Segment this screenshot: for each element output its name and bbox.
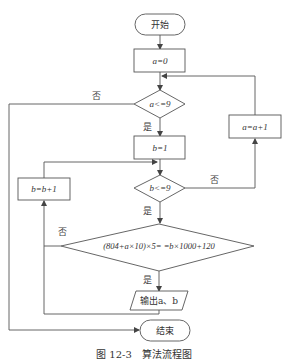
inc-b-box: b=b+1 (18, 178, 70, 200)
cond-eq-diamond: (804+a×10)×5= =b×1000+120 (61, 224, 254, 271)
cond-a-label: a<=9 (149, 99, 171, 109)
start-terminal: 开始 (135, 14, 185, 35)
inc-a-box: a=a+1 (229, 115, 281, 138)
inc-b-label: b=b+1 (31, 184, 57, 194)
arrow-cond-b-no-to-inc-a (185, 139, 255, 188)
init-a-box: a=0 (134, 49, 185, 72)
cond-a-diamond: a<=9 (134, 90, 185, 118)
end-terminal: 结束 (140, 320, 190, 341)
arrow-cond-a-no-to-end (9, 104, 139, 330)
flowchart-canvas: 开始 a=0 a<=9 否 是 a=a+1 b=1 b<=9 否 是 b=b+1 (0, 0, 288, 364)
end-label: 结束 (156, 325, 174, 336)
label-yes-eq: 是 (143, 275, 152, 285)
output-box: 输出a、b (130, 291, 188, 310)
inc-a-label: a=a+1 (242, 122, 268, 132)
label-no-eq: 否 (58, 227, 67, 237)
init-b-box: b=1 (134, 136, 185, 159)
init-b-label: b=1 (152, 143, 167, 153)
cond-eq-label: (804+a×10)×5= =b×1000+120 (103, 241, 215, 251)
label-yes-a: 是 (143, 122, 152, 132)
label-yes-b: 是 (143, 206, 152, 216)
output-label: 输出a、b (140, 295, 178, 306)
start-label: 开始 (151, 19, 169, 30)
label-no-a: 否 (92, 91, 101, 101)
label-no-b: 否 (210, 175, 219, 185)
cond-b-label: b<=9 (149, 183, 171, 193)
arrow-cond-eq-no-to-inc-b (44, 201, 61, 246)
cond-b-diamond: b<=9 (134, 175, 185, 202)
arrow-inc-b-loop (44, 162, 157, 178)
init-a-label: a=0 (152, 56, 168, 66)
figure-caption: 图 12-3 算法流程图 (96, 348, 192, 360)
